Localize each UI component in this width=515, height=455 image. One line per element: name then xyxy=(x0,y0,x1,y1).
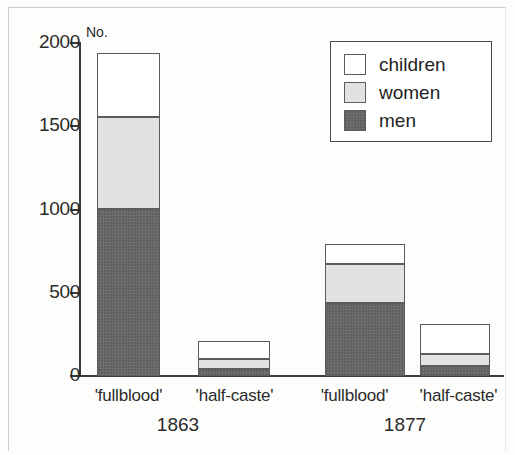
bar-segment-men xyxy=(97,209,160,376)
x-label-halfcaste-1877: 'half-caste' xyxy=(402,386,515,406)
bar-segment-women xyxy=(97,117,160,209)
dark-gray-swatch-icon xyxy=(344,110,366,131)
legend-item-men: men xyxy=(344,107,491,134)
bar-segment-women xyxy=(420,354,490,366)
bar-segment-children xyxy=(198,341,270,359)
bar-segment-children xyxy=(420,324,490,354)
bar-segment-children xyxy=(325,244,405,264)
bar-halfcaste-1863[interactable] xyxy=(198,341,270,376)
legend-label-men: men xyxy=(379,111,416,130)
bar-fullblood-1877[interactable] xyxy=(325,244,405,376)
legend-item-children: children xyxy=(344,51,491,78)
bar-halfcaste-1877[interactable] xyxy=(420,324,490,376)
bar-segment-men xyxy=(198,369,270,376)
bar-segment-children xyxy=(97,53,160,117)
light-gray-swatch-icon xyxy=(344,82,366,103)
legend-label-women: women xyxy=(379,83,440,102)
bar-segment-men xyxy=(420,366,490,376)
group-label-1863: 1863 xyxy=(128,414,228,436)
bar-fullblood-1863[interactable] xyxy=(97,53,160,376)
group-label-1877: 1877 xyxy=(355,414,455,436)
legend-item-women: women xyxy=(344,79,491,106)
x-label-halfcaste-1863: 'half-caste' xyxy=(178,386,291,406)
bar-segment-men xyxy=(325,303,405,376)
legend: children women men xyxy=(330,41,492,142)
stacked-bar-chart: 2000 1500 1000 500 0 No. xyxy=(0,0,515,455)
bar-segment-women xyxy=(325,264,405,303)
x-label-fullblood-1863: 'fullblood' xyxy=(77,386,180,406)
bar-segment-women xyxy=(198,359,270,369)
legend-label-children: children xyxy=(379,55,446,74)
x-label-fullblood-1877: 'fullblood' xyxy=(303,386,406,406)
white-swatch-icon xyxy=(344,54,366,75)
